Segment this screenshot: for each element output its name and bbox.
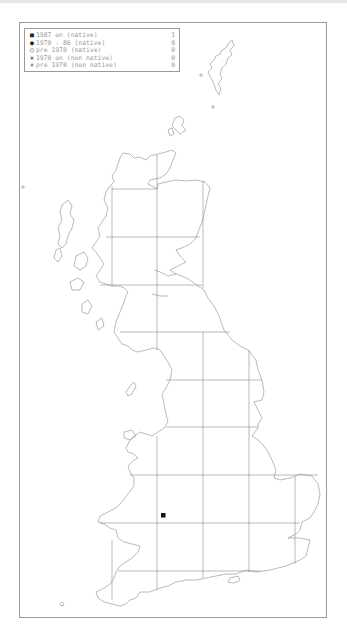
legend: ■ 1987 on (native) 1 ● 1970 - 86 (native… xyxy=(24,28,180,72)
legend-count: 0 xyxy=(151,62,175,70)
record-marker-1987-on-native xyxy=(161,513,166,518)
coastline xyxy=(22,40,320,606)
legend-row: + pre 1970 (non native) 0 xyxy=(29,62,175,70)
distribution-map xyxy=(0,0,347,638)
plus-icon: + xyxy=(29,62,35,70)
legend-label: pre 1970 (non native) xyxy=(36,62,151,70)
grid-lines xyxy=(100,155,318,600)
